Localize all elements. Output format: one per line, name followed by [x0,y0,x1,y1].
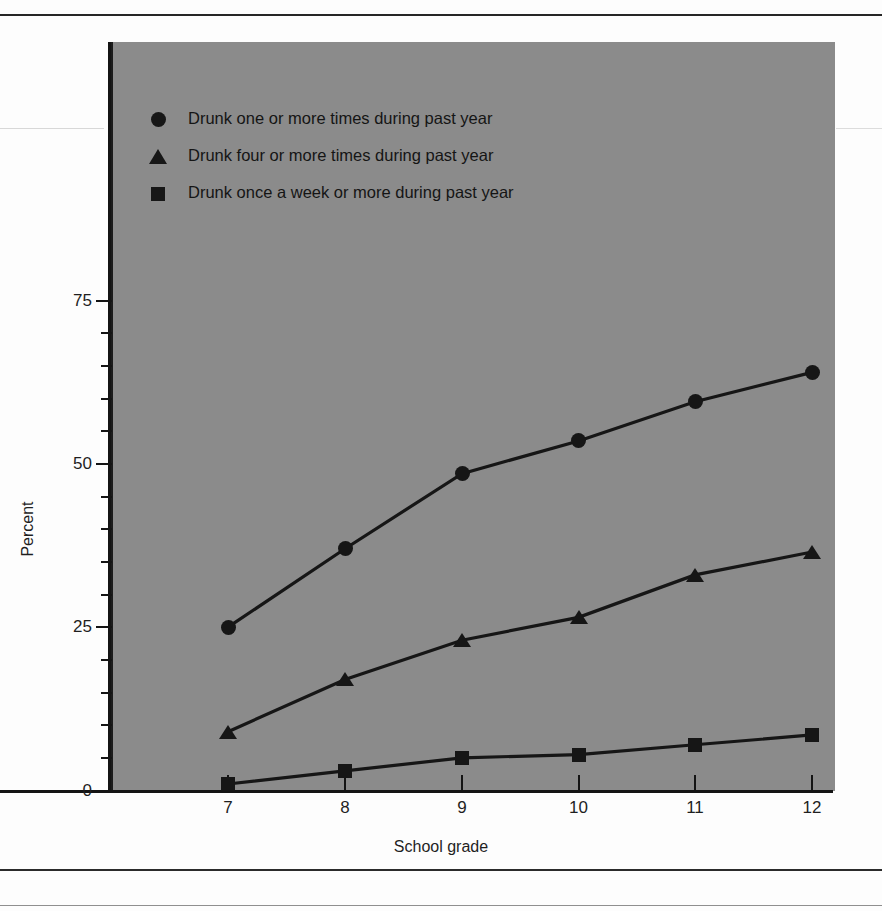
triangle-marker-icon [148,145,170,167]
data-point-circle [338,541,353,556]
data-point-circle [221,620,236,635]
legend-item: Drunk one or more times during past year [148,100,668,137]
data-point-circle [805,365,820,380]
y-axis-title: Percent [19,479,37,579]
data-point-triangle [453,633,471,647]
line-chart: 0255075 789101112 Drunk one or more time… [0,0,882,911]
data-point-square [805,728,819,742]
legend-item: Drunk once a week or more during past ye… [148,174,668,211]
data-point-square [338,764,352,778]
series-line [228,372,812,627]
data-point-triangle [803,545,821,559]
data-point-square [455,751,469,765]
data-point-triangle [686,568,704,582]
page-canvas: 0255075 789101112 Drunk one or more time… [0,0,882,911]
data-point-square [688,738,702,752]
data-point-triangle [570,610,588,624]
series-line [228,735,812,784]
series-line [228,552,812,732]
data-point-square [572,748,586,762]
data-point-circle [688,394,703,409]
chart-legend: Drunk one or more times during past year… [148,100,668,211]
data-point-circle [455,466,470,481]
legend-item-label: Drunk one or more times during past year [188,109,492,128]
data-point-triangle [219,725,237,739]
data-point-triangle [336,672,354,686]
data-point-square [221,777,235,791]
legend-item-label: Drunk once a week or more during past ye… [188,183,514,202]
circle-marker-icon [148,108,170,130]
square-marker-icon [148,182,170,204]
legend-item: Drunk four or more times during past yea… [148,137,668,174]
legend-item-label: Drunk four or more times during past yea… [188,146,493,165]
x-axis-title: School grade [0,838,882,856]
